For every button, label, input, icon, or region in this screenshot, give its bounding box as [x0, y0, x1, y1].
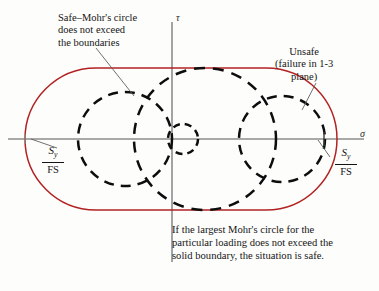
left-limit-denominator: FS	[36, 164, 70, 176]
left-yield-limit-label: Sy FS	[36, 144, 70, 176]
safe-annotation-text: Safe–Mohr's circle does not exceed the b…	[58, 12, 137, 49]
right-limit-fraction-bar	[335, 164, 357, 165]
figure-caption-text: If the largest Mohr's circle for the par…	[172, 223, 333, 263]
right-limit-numerator: Sy	[329, 146, 363, 163]
left-limit-fraction-bar	[42, 162, 64, 163]
right-limit-subscript: y	[347, 152, 350, 161]
left-limit-numerator: Sy	[36, 144, 70, 161]
right-yield-limit-label: Sy FS	[329, 146, 363, 178]
tau-axis-label: τ	[176, 12, 180, 23]
right-limit-denominator: FS	[329, 166, 363, 178]
left-limit-subscript: y	[54, 150, 57, 159]
mohr-circle-figure: τ σ Safe–Mohr's circle does not exceed t…	[0, 0, 379, 291]
sigma-axis-label: σ	[360, 128, 365, 139]
unsafe-callout-leader	[302, 83, 316, 110]
unsafe-annotation-text: Unsafe (failure in 1-3 plane)	[275, 46, 333, 83]
safe-callout-leader	[96, 48, 134, 96]
